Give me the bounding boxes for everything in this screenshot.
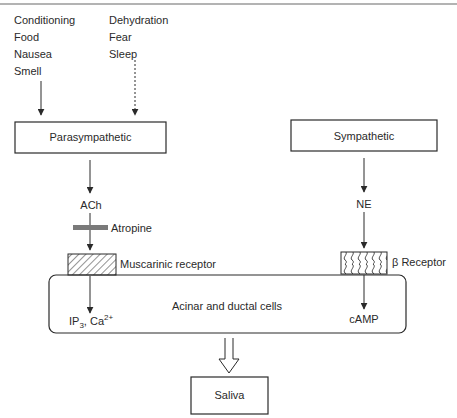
stimulus-smell: Smell xyxy=(14,65,42,77)
saliva-regulation-diagram: Conditioning Food Nausea Smell Dehydrati… xyxy=(0,0,457,418)
cells-label: Acinar and ductal cells xyxy=(172,300,283,312)
stimulus-sleep: Sleep xyxy=(109,48,137,60)
muscarinic-receptor-label: Muscarinic receptor xyxy=(120,258,216,270)
beta-receptor: β Receptor xyxy=(341,252,446,274)
muscarinic-receptor: Muscarinic receptor xyxy=(68,254,216,275)
stimulus-conditioning: Conditioning xyxy=(14,14,75,26)
stimulus-nausea: Nausea xyxy=(14,48,53,60)
parasympathetic-box: Parasympathetic xyxy=(15,122,166,153)
sympathetic-label: Sympathetic xyxy=(334,130,395,142)
camp-label: cAMP xyxy=(349,313,378,325)
beta-receptor-label: β Receptor xyxy=(392,256,446,268)
sympathetic-box: Sympathetic xyxy=(291,120,437,151)
stimuli-right: Dehydration Fear Sleep xyxy=(109,14,168,60)
atropine-label: Atropine xyxy=(111,222,152,234)
stimulus-fear: Fear xyxy=(109,31,132,43)
saliva-label: Saliva xyxy=(215,389,246,401)
ne-label: NE xyxy=(356,198,371,210)
stimulus-food: Food xyxy=(14,31,39,43)
saliva-box: Saliva xyxy=(191,377,268,414)
secretion-hollow-arrow xyxy=(219,338,239,373)
stimuli-left: Conditioning Food Nausea Smell xyxy=(14,14,75,77)
ach-label: ACh xyxy=(80,199,101,211)
stimulus-dehydration: Dehydration xyxy=(109,14,168,26)
parasympathetic-label: Parasympathetic xyxy=(50,131,132,143)
atropine-block-bar xyxy=(73,225,108,230)
